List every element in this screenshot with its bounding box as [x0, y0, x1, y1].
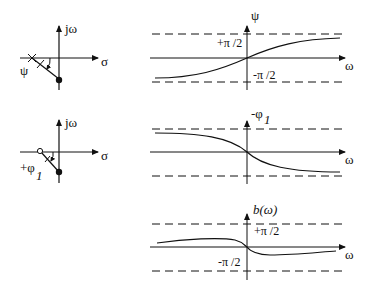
omega-label: ω [345, 58, 354, 73]
phi-angle-label: +φ [20, 160, 35, 175]
sigma-label: σ [101, 148, 108, 163]
neg-phi-subscript: 1 [264, 112, 271, 127]
phi-subscript: 1 [36, 168, 43, 183]
lower-bound-label: -π /2 [218, 255, 240, 269]
sigma-label: σ [101, 54, 108, 69]
upper-bound-label: +π /2 [254, 224, 279, 238]
upper-bound-label: +π /2 [217, 36, 242, 50]
psi-angle-label: ψ [20, 63, 28, 78]
plot-psi: ψ +π /2 -π /2 ω [150, 8, 354, 90]
phase-diagram: jω σ ψ ψ +π /2 -π /2 ω jω σ [0, 0, 367, 290]
pz-plane-1: jω σ ψ [20, 21, 108, 90]
vector-line [32, 58, 59, 79]
zero-o-icon [37, 148, 42, 153]
point-jw0-icon [56, 169, 62, 175]
angle-arc-icon [47, 58, 50, 69]
plot-b-omega: b(ω) +π /2 -π /2 ω [150, 202, 354, 280]
angle-arc-icon [51, 152, 53, 161]
plot-neg-phi1: -φ 1 ω [150, 106, 354, 184]
psi-y-label: ψ [251, 8, 259, 23]
pz-plane-2: jω σ +φ 1 [20, 115, 108, 183]
jw-label: jω [64, 115, 78, 130]
omega-label: ω [345, 152, 354, 167]
neg-phi-y-label: -φ [251, 106, 263, 121]
jw-label: jω [64, 21, 78, 36]
omega-label: ω [345, 247, 354, 262]
b-y-label: b(ω) [253, 202, 277, 217]
point-jw0-icon [56, 77, 62, 83]
vector-line [41, 152, 59, 172]
lower-bound-label: -π /2 [253, 68, 275, 82]
